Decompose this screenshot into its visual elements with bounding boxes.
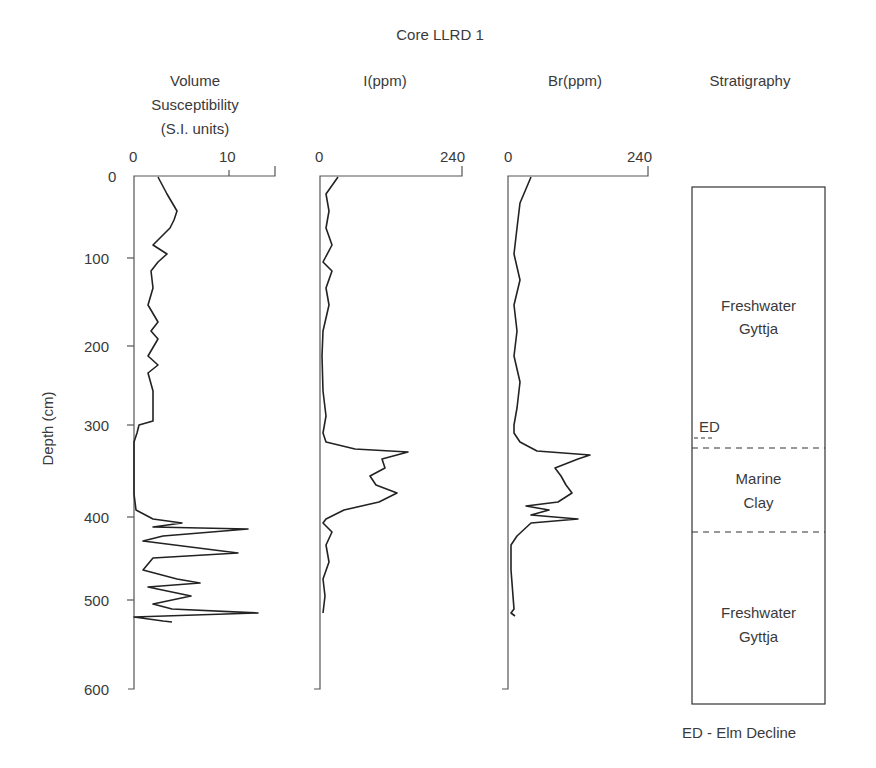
strat-middle-line1: Marine	[692, 470, 825, 487]
strat-lower-line1: Freshwater	[692, 604, 825, 621]
strat-upper-line2: Gyttja	[692, 320, 825, 337]
strat-column	[692, 187, 825, 704]
br-axis	[502, 166, 648, 689]
i-curve	[322, 177, 408, 613]
chart-canvas	[0, 0, 876, 768]
strat-lower-line2: Gyttja	[692, 628, 825, 645]
i-axis	[314, 166, 462, 689]
legend-ed: ED - Elm Decline	[682, 724, 796, 741]
br-curve	[511, 177, 590, 616]
strat-middle-line2: Clay	[692, 494, 825, 511]
strat-upper-line1: Freshwater	[692, 297, 825, 314]
ed-marker: ED	[699, 418, 720, 435]
vs-curve	[134, 177, 258, 622]
